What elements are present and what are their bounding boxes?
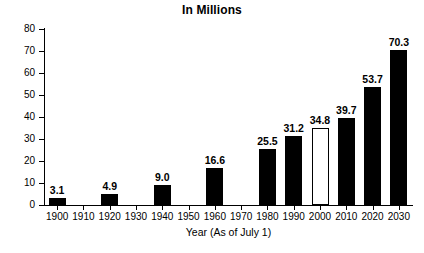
y-axis-tick xyxy=(39,73,44,74)
x-axis-tick xyxy=(110,206,111,210)
y-axis-tick xyxy=(39,183,44,184)
y-axis-tick xyxy=(39,51,44,52)
x-axis-tick-label: 1990 xyxy=(281,211,307,222)
y-axis-tick xyxy=(39,139,44,140)
x-axis-tick-label: 1970 xyxy=(228,211,254,222)
x-axis-tick-label: 2030 xyxy=(386,211,412,222)
bar xyxy=(49,198,66,205)
bar-value-label: 39.7 xyxy=(333,105,359,116)
bar-value-label: 9.0 xyxy=(149,172,175,183)
bar-value-label: 4.9 xyxy=(97,181,123,192)
y-axis-tick xyxy=(39,205,44,206)
x-axis-tick xyxy=(57,206,58,210)
y-axis-tick-label: 60 xyxy=(0,68,35,78)
x-axis-tick-label: 2000 xyxy=(307,211,333,222)
bar xyxy=(338,118,355,205)
bar xyxy=(312,128,329,205)
y-axis-tick-label: 0 xyxy=(0,200,35,210)
x-axis-tick xyxy=(346,206,347,210)
bar xyxy=(259,149,276,205)
y-axis-tick xyxy=(39,117,44,118)
bar xyxy=(364,87,381,205)
x-axis-tick xyxy=(241,206,242,210)
y-axis-tick xyxy=(39,95,44,96)
x-axis-tick-label: 1940 xyxy=(149,211,175,222)
x-axis-tick xyxy=(189,206,190,210)
x-axis-tick xyxy=(320,206,321,210)
x-axis-tick-label: 2010 xyxy=(333,211,359,222)
bar xyxy=(154,185,171,205)
bar-value-label: 34.8 xyxy=(307,115,333,126)
y-axis-tick xyxy=(39,29,44,30)
y-axis-tick-label: 40 xyxy=(0,112,35,122)
y-axis-tick-label: 30 xyxy=(0,134,35,144)
x-axis-tick xyxy=(136,206,137,210)
x-axis-tick xyxy=(267,206,268,210)
y-axis-tick-label: 50 xyxy=(0,90,35,100)
x-axis-tick-label: 1920 xyxy=(97,211,123,222)
x-axis-tick xyxy=(399,206,400,210)
x-axis-tick xyxy=(215,206,216,210)
x-axis-line xyxy=(44,205,413,206)
y-axis-tick-label: 10 xyxy=(0,178,35,188)
bar xyxy=(101,194,118,205)
bar-chart: In Millions 01020304050607080 1900191019… xyxy=(0,0,424,253)
x-axis-tick xyxy=(162,206,163,210)
bar-value-label: 31.2 xyxy=(281,123,307,134)
x-axis-tick-label: 1910 xyxy=(70,211,96,222)
chart-title: In Millions xyxy=(0,3,424,17)
bar xyxy=(285,136,302,205)
y-axis-tick-label: 20 xyxy=(0,156,35,166)
x-axis-tick-label: 1900 xyxy=(44,211,70,222)
bar-value-label: 70.3 xyxy=(386,37,412,48)
y-axis-tick-label: 70 xyxy=(0,46,35,56)
y-axis-tick-label: 80 xyxy=(0,24,35,34)
x-axis-tick-label: 1930 xyxy=(123,211,149,222)
x-axis-tick xyxy=(83,206,84,210)
bar-value-label: 53.7 xyxy=(359,74,385,85)
bar-value-label: 3.1 xyxy=(44,185,70,196)
bar-value-label: 25.5 xyxy=(254,136,280,147)
x-axis-tick-label: 1960 xyxy=(202,211,228,222)
x-axis-title: Year (As of July 1) xyxy=(44,226,413,238)
x-axis-tick-label: 1980 xyxy=(254,211,280,222)
bar xyxy=(390,50,407,205)
x-axis-tick xyxy=(294,206,295,210)
bar xyxy=(206,168,223,205)
x-axis-tick-label: 2020 xyxy=(359,211,385,222)
x-axis-tick xyxy=(373,206,374,210)
bar-value-label: 16.6 xyxy=(202,155,228,166)
y-axis-tick xyxy=(39,161,44,162)
x-axis-tick-label: 1950 xyxy=(175,211,201,222)
y-axis-line xyxy=(44,28,45,206)
